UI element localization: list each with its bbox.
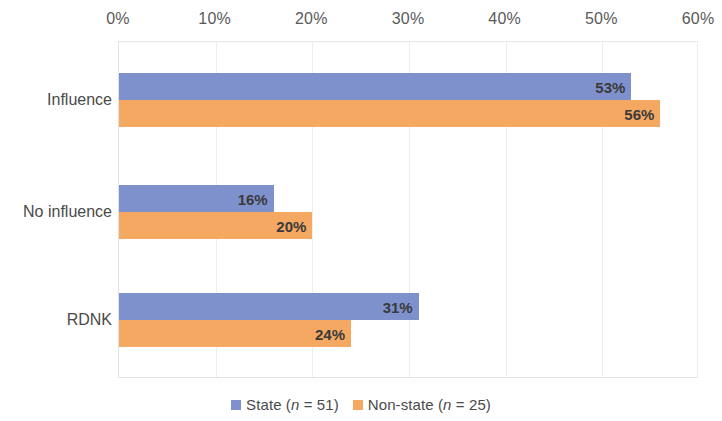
- x-tick-label-40: 40%: [465, 10, 545, 28]
- bar-nonstate-rdnk: 24%: [119, 320, 351, 347]
- x-tick-label-20: 20%: [271, 10, 351, 28]
- x-tick-label-0: 0%: [78, 10, 158, 28]
- legend-label: State (n = 51): [246, 396, 339, 413]
- x-tick-label-30: 30%: [368, 10, 448, 28]
- legend-swatch-icon: [231, 400, 241, 410]
- bar-nonstate-influence: 56%: [119, 100, 660, 127]
- legend-item-state[interactable]: State (n = 51): [231, 396, 339, 413]
- bar-state-influence: 53%: [119, 73, 631, 100]
- legend-label-n-symbol: n: [443, 396, 451, 413]
- legend-label-suffix: = 51): [299, 396, 338, 413]
- legend-label-suffix: = 25): [452, 396, 491, 413]
- bar-state-no-influence: 16%: [119, 185, 274, 212]
- chart-legend: State (n = 51)Non-state (n = 25): [0, 396, 722, 413]
- category-label-influence: Influence: [0, 91, 112, 109]
- bar-value-label: 31%: [383, 298, 413, 315]
- legend-swatch-icon: [353, 400, 363, 410]
- legend-label-prefix: Non-state (: [368, 396, 443, 413]
- legend-item-nonstate[interactable]: Non-state (n = 25): [353, 396, 491, 413]
- bar-value-label: 16%: [238, 190, 268, 207]
- bar-state-rdnk: 31%: [119, 293, 419, 320]
- legend-label: Non-state (n = 25): [368, 396, 491, 413]
- legend-label-prefix: State (: [246, 396, 291, 413]
- bar-value-label: 20%: [276, 217, 306, 234]
- category-label-rdnk: RDNK: [0, 311, 112, 329]
- bar-value-label: 53%: [595, 78, 625, 95]
- bar-nonstate-no-influence: 20%: [119, 212, 312, 239]
- bar-chart: 0%10%20%30%40%50%60% InfluenceNo influen…: [0, 0, 722, 421]
- x-tick-label-60: 60%: [658, 10, 722, 28]
- x-tick-label-10: 10%: [175, 10, 255, 28]
- bar-value-label: 56%: [624, 105, 654, 122]
- x-tick-label-50: 50%: [561, 10, 641, 28]
- bar-value-label: 24%: [315, 325, 345, 342]
- category-label-no-influence: No influence: [0, 203, 112, 221]
